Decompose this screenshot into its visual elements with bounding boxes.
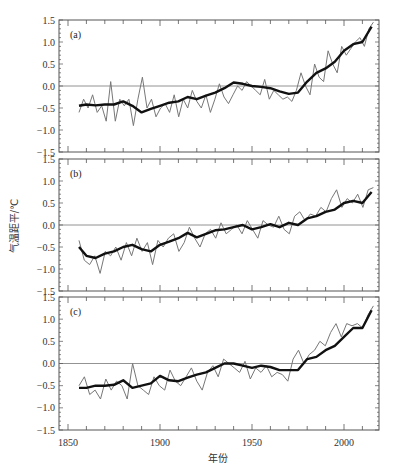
y-tick-label: 1.0 [43, 176, 56, 187]
x-tick-label: 1900 [150, 437, 170, 448]
y-tick-label: 1.5 [43, 292, 56, 303]
y-tick-label: −1.0 [37, 402, 55, 413]
y-tick-label: 0.5 [43, 198, 56, 209]
y-tick-label: 1.5 [43, 15, 56, 26]
y-tick-label: 0.5 [43, 59, 56, 70]
y-tick-label: −0.5 [37, 103, 55, 114]
y-tick-label: −1.0 [37, 264, 55, 275]
panel-label: (a) [70, 29, 81, 41]
panel-label: (b) [70, 168, 82, 180]
smoothed-series-line [79, 310, 372, 388]
x-axis-label: 年份 [208, 452, 228, 464]
y-tick-label: 1.5 [43, 154, 56, 165]
y-tick-label: −0.5 [37, 380, 55, 391]
panel-c: −1.5−1.0−0.50.00.51.01.5(c) [37, 292, 379, 436]
temperature-anomaly-chart: −1.5−1.0−0.50.00.51.01.5(a)−1.5−1.0−0.50… [0, 0, 398, 474]
y-tick-label: 0.0 [43, 220, 56, 231]
y-tick-label: 1.0 [43, 314, 56, 325]
x-tick-label: 1850 [58, 437, 78, 448]
y-tick-label: −1.0 [37, 125, 55, 136]
y-tick-label: −0.5 [37, 242, 55, 253]
y-tick-label: 0.0 [43, 81, 56, 92]
annual-series-line [79, 306, 373, 399]
x-tick-label: 2000 [334, 437, 354, 448]
y-axis-label: 气温距平/℃ [8, 199, 20, 254]
panel-a: −1.5−1.0−0.50.00.51.01.5(a) [37, 15, 379, 158]
y-tick-label: 1.0 [43, 37, 56, 48]
panel-b: −1.5−1.0−0.50.00.51.01.5(b) [37, 154, 379, 297]
annual-series-line [79, 188, 373, 274]
panel-label: (c) [70, 306, 81, 318]
y-tick-label: 0.0 [43, 358, 56, 369]
y-tick-label: 0.5 [43, 336, 56, 347]
annual-series-line [79, 22, 373, 125]
x-tick-label: 1950 [242, 437, 262, 448]
y-tick-label: −1.5 [37, 425, 55, 436]
